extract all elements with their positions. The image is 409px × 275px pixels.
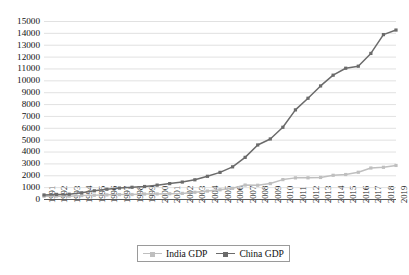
data-point-2014	[332, 74, 335, 77]
data-point-2018	[382, 33, 385, 36]
data-point-1992	[55, 193, 58, 196]
data-point-2008	[256, 143, 259, 146]
data-point-2005	[218, 171, 221, 174]
data-point-2000	[156, 192, 159, 195]
data-point-2016	[357, 171, 360, 174]
series-india-gdp	[42, 164, 397, 198]
data-point-2004	[206, 175, 209, 178]
data-point-2002	[181, 192, 184, 195]
legend-label-china-gdp: China GDP	[239, 249, 284, 259]
data-point-1995	[93, 189, 96, 192]
data-point-2011	[294, 108, 297, 111]
chart-legend: India GDP China GDP	[137, 245, 290, 262]
legend-item-india-gdp[interactable]: India GDP	[143, 249, 207, 259]
data-point-2017	[369, 52, 372, 55]
data-point-2017	[369, 166, 372, 169]
data-point-2016	[357, 65, 360, 68]
data-point-2009	[269, 137, 272, 140]
data-point-2003	[193, 178, 196, 181]
data-point-1994	[80, 191, 83, 194]
legend-item-china-gdp[interactable]: China GDP	[216, 249, 284, 259]
data-point-1996	[105, 188, 108, 191]
data-point-2002	[181, 180, 184, 183]
data-point-2001	[168, 182, 171, 185]
data-point-2014	[332, 174, 335, 177]
series-line-0	[44, 165, 396, 196]
data-point-1993	[68, 193, 71, 196]
legend-marker-india-gdp	[143, 250, 162, 258]
data-point-2004	[206, 189, 209, 192]
data-point-2005	[218, 188, 221, 191]
data-point-2006	[231, 187, 234, 190]
data-point-2012	[306, 176, 309, 179]
series-line-1	[44, 30, 396, 195]
data-point-1998	[130, 186, 133, 189]
data-point-2010	[281, 178, 284, 181]
data-point-2015	[344, 173, 347, 176]
data-point-1996	[105, 193, 108, 196]
data-point-1998	[130, 193, 133, 196]
data-point-1991	[42, 193, 45, 196]
data-point-2007	[244, 183, 247, 186]
data-point-1997	[118, 186, 121, 189]
data-point-2012	[306, 97, 309, 100]
data-point-2019	[394, 28, 397, 31]
data-point-2018	[382, 166, 385, 169]
legend-label-india-gdp: India GDP	[166, 249, 207, 259]
data-point-2015	[344, 67, 347, 70]
data-point-1995	[93, 194, 96, 197]
data-point-2006	[231, 165, 234, 168]
data-point-2011	[294, 176, 297, 179]
data-point-2010	[281, 126, 284, 129]
data-point-2000	[156, 184, 159, 187]
data-point-2013	[319, 84, 322, 87]
data-point-1994	[80, 194, 83, 197]
data-point-1997	[118, 193, 121, 196]
series-china-gdp	[42, 28, 397, 196]
data-point-1999	[143, 192, 146, 195]
data-point-2019	[394, 164, 397, 167]
data-point-1999	[143, 185, 146, 188]
data-point-2001	[168, 192, 171, 195]
data-point-2008	[256, 184, 259, 187]
data-point-2013	[319, 176, 322, 179]
data-point-2007	[244, 156, 247, 159]
data-point-2003	[193, 191, 196, 194]
legend-marker-china-gdp	[216, 250, 235, 258]
data-point-2009	[269, 182, 272, 185]
